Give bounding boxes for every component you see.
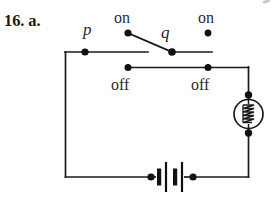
battery-plate-3-short <box>173 169 177 186</box>
page-title: 16. a. <box>4 13 41 30</box>
switch-q-name-label: q <box>161 24 170 41</box>
node-p-off <box>125 64 132 71</box>
switch-p-on-label: on <box>114 10 130 26</box>
node-lamp-bottom <box>245 129 252 136</box>
switch-q-off-label: off <box>191 77 209 93</box>
battery-symbol <box>151 162 193 192</box>
circuit-diagram <box>0 0 273 202</box>
battery-plate-1-short <box>157 169 161 186</box>
wire-group <box>65 33 249 177</box>
node-q-off <box>205 64 212 71</box>
lamp-symbol <box>234 99 263 129</box>
node-q-common-pivot <box>168 48 176 56</box>
node-p-common <box>81 48 88 55</box>
switch-p-name-label: p <box>83 21 92 38</box>
switch-p-off-label: off <box>111 77 129 93</box>
switch-q-on-label: on <box>198 10 214 26</box>
node-p-on <box>124 29 131 36</box>
node-lamp-top <box>245 91 252 98</box>
figure-canvas: 16. a. on on off off p q <box>0 0 273 202</box>
node-q-on <box>205 30 212 37</box>
